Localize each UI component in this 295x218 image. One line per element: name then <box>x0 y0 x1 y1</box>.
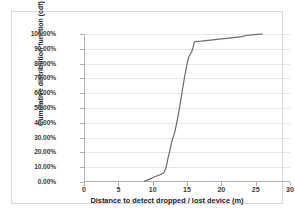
y-axis-tick-label: 20.00% <box>4 148 56 155</box>
y-axis-tick-label: 90.00% <box>4 45 56 52</box>
x-axis-tick-label: 15 <box>175 186 199 193</box>
y-axis-tick-label: 100.00% <box>4 30 56 37</box>
x-axis-tick-label: 0 <box>72 186 96 193</box>
chart-figure: Cumulative distribution function (cdf) D… <box>0 0 294 218</box>
x-axis-tick-label: 10 <box>141 186 165 193</box>
y-axis-tick-label: 40.00% <box>4 119 56 126</box>
plot-area <box>84 34 290 182</box>
y-axis-tick-label: 60.00% <box>4 89 56 96</box>
x-axis-tick-label: 5 <box>106 186 130 193</box>
cdf-line <box>144 34 262 181</box>
x-axis-title: Distance to detect dropped / lost device… <box>52 196 282 205</box>
x-axis-tick-label: 30 <box>278 186 294 193</box>
gridline <box>85 182 290 183</box>
y-axis-title: Cumulative distribution function (cdf) <box>37 0 44 138</box>
x-axis-tick-label: 25 <box>244 186 268 193</box>
x-axis-tick-mark <box>290 182 291 186</box>
y-axis-tick-label: 50.00% <box>4 104 56 111</box>
y-axis-tick-label: 30.00% <box>4 134 56 141</box>
x-axis-tick-label: 20 <box>209 186 233 193</box>
y-axis-tick-label: 80.00% <box>4 60 56 67</box>
chart-frame: Cumulative distribution function (cdf) D… <box>11 11 283 204</box>
y-axis-tick-label: 10.00% <box>4 163 56 170</box>
y-axis-tick-label: 0.00% <box>4 178 56 185</box>
y-axis-tick-label: 70.00% <box>4 74 56 81</box>
data-series-cdf <box>85 34 290 181</box>
